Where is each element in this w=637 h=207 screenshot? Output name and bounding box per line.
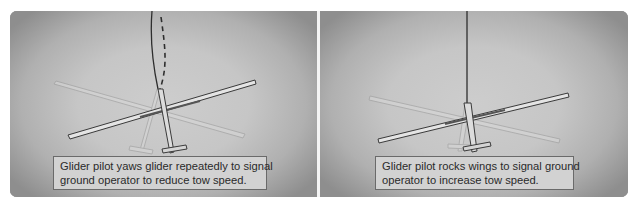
panel-yaw-signal: Glider pilot yaws glider repeatedly to s… <box>10 11 317 197</box>
caption-rock-signal: Glider pilot rocks wings to signal groun… <box>375 156 574 190</box>
main-glider-icon <box>378 93 569 152</box>
caption-line: Glider pilot rocks wings to signal groun… <box>382 160 567 174</box>
signal-diagram: Glider pilot yaws glider repeatedly to s… <box>10 11 628 197</box>
main-glider-icon <box>68 80 256 153</box>
tow-line-dashed <box>160 17 165 89</box>
caption-line: ground operator to reduce tow speed. <box>60 174 260 188</box>
caption-line: Glider pilot yaws glider repeatedly to s… <box>60 160 260 174</box>
tow-line-solid <box>151 11 158 89</box>
caption-yaw-signal: Glider pilot yaws glider repeatedly to s… <box>53 156 267 190</box>
panel-rock-signal: Glider pilot rocks wings to signal groun… <box>320 11 628 197</box>
caption-line: operator to increase tow speed. <box>382 174 567 188</box>
